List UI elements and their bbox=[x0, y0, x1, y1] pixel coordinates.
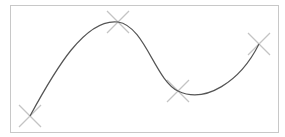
control-point-markers bbox=[19, 11, 270, 127]
spline-curve bbox=[30, 22, 259, 116]
curve-canvas bbox=[0, 0, 285, 137]
